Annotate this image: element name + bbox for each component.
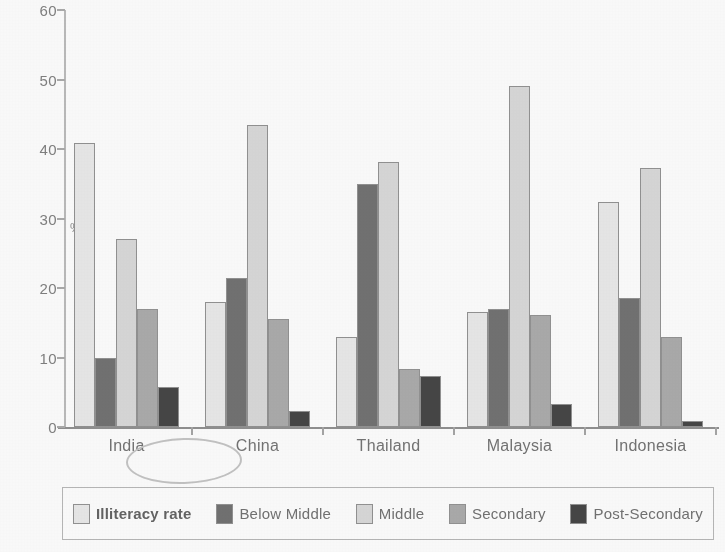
x-axis-category-label-thailand: Thailand <box>357 437 421 455</box>
x-axis-category-label-malaysia: Malaysia <box>487 437 553 455</box>
bar-group: Malaysia <box>467 9 572 427</box>
legend-item: Below Middle <box>216 504 331 524</box>
bar-group: India <box>74 9 179 427</box>
bar <box>226 278 247 427</box>
bar <box>661 337 682 427</box>
bar <box>640 168 661 427</box>
bar <box>619 298 640 427</box>
bar <box>509 86 530 427</box>
legend-label: Post-Secondary <box>593 505 703 522</box>
y-axis-tick-label: 50 <box>40 71 58 88</box>
bar <box>116 239 137 427</box>
bar-group: Thailand <box>336 9 441 427</box>
y-axis-tick-label: 40 <box>40 141 58 158</box>
x-axis-category-label-china: China <box>236 437 279 455</box>
y-axis-tick-label: 0 <box>48 419 57 436</box>
x-axis-tick-mark <box>453 427 455 435</box>
x-axis-category-label-indonesia: Indonesia <box>614 437 686 455</box>
y-axis-tick-mark <box>57 79 65 81</box>
legend-swatch-icon <box>73 504 90 524</box>
legend-swatch-icon <box>356 504 373 524</box>
bar-group: Indonesia <box>598 9 703 427</box>
legend-swatch-icon <box>570 504 587 524</box>
bar <box>598 202 619 427</box>
x-axis-tick-mark <box>715 427 717 435</box>
bar <box>336 337 357 427</box>
bar <box>158 387 179 427</box>
bar-group: China <box>205 9 310 427</box>
legend-label: Illiteracy rate <box>96 505 192 522</box>
bar <box>488 309 509 427</box>
bar <box>399 369 420 427</box>
bar <box>205 302 226 427</box>
bar <box>289 411 310 427</box>
bar <box>682 421 703 427</box>
legend-item: Post-Secondary <box>570 504 703 524</box>
y-axis-tick-mark <box>57 357 65 359</box>
y-axis-tick-mark <box>57 218 65 220</box>
bar <box>247 125 268 427</box>
legend-label: Middle <box>379 505 424 522</box>
bar <box>357 184 378 427</box>
legend-item: Secondary <box>449 504 546 524</box>
bar <box>95 358 116 428</box>
bar <box>378 162 399 427</box>
bar-groups: IndiaChinaThailandMalaysiaIndonesia <box>66 10 719 428</box>
bar <box>74 143 95 427</box>
y-axis-tick-mark <box>57 148 65 150</box>
legend-item: Middle <box>356 504 424 524</box>
bar <box>467 312 488 427</box>
x-axis-tick-mark <box>191 427 193 435</box>
chart-legend: Illiteracy rateBelow MiddleMiddleSeconda… <box>62 487 714 540</box>
y-axis-tick-label: 30 <box>40 210 58 227</box>
x-axis-tick-mark <box>584 427 586 435</box>
chart-root: % 0102030405060 IndiaChinaThailandMalays… <box>0 0 725 552</box>
bar <box>420 376 441 427</box>
bar <box>551 404 572 427</box>
legend-item: Illiteracy rate <box>73 504 192 524</box>
y-axis-tick-mark <box>57 9 65 11</box>
y-axis-tick-label: 60 <box>40 2 58 19</box>
legend-swatch-icon <box>216 504 233 524</box>
y-axis-tick-mark <box>57 426 65 428</box>
bar <box>530 315 551 427</box>
x-axis-tick-mark <box>322 427 324 435</box>
y-axis-tick-mark <box>57 287 65 289</box>
legend-label: Secondary <box>472 505 546 522</box>
bar <box>137 309 158 427</box>
y-axis-tick-label: 20 <box>40 280 58 297</box>
legend-label: Below Middle <box>239 505 331 522</box>
legend-swatch-icon <box>449 504 466 524</box>
y-axis-tick-label: 10 <box>40 349 58 366</box>
bar <box>268 319 289 427</box>
plot-area: % 0102030405060 IndiaChinaThailandMalays… <box>64 10 719 428</box>
